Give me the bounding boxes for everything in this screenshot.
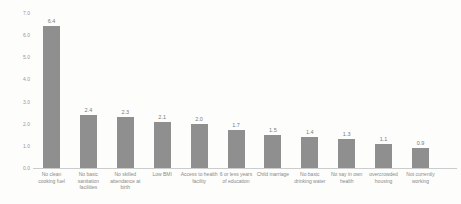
bar-value-label: 2.3: [110, 109, 140, 115]
bar: [375, 144, 392, 168]
category-label: Not currently working: [402, 171, 440, 184]
y-tick-label: 6.0: [12, 32, 30, 38]
category-label: Low BMI: [143, 171, 181, 178]
bar-value-label: 1.4: [295, 129, 325, 135]
category-label: No say in own health: [328, 171, 366, 184]
bar-value-label: 0.9: [406, 140, 436, 146]
category-label: Access to health facility: [180, 171, 218, 184]
bar-value-label: 2.4: [73, 107, 103, 113]
y-tick-label: 7.0: [12, 10, 30, 16]
bar-value-label: 2.1: [147, 114, 177, 120]
bar: [301, 137, 318, 168]
bar-value-label: 1.7: [221, 122, 251, 128]
bar-chart: 0.01.02.03.04.05.06.07.0 6.4No clean coo…: [0, 0, 461, 204]
bar: [80, 115, 97, 168]
x-axis-line: [33, 168, 457, 169]
bar-value-label: 1.5: [258, 127, 288, 133]
category-label: No skilled attendance at birth: [106, 171, 144, 191]
bar: [117, 117, 134, 168]
category-label: No basic drinking water: [291, 171, 329, 184]
category-label: No clean cooking fuel: [33, 171, 71, 184]
bar-value-label: 1.3: [332, 131, 362, 137]
y-tick-label: 2.0: [12, 121, 30, 127]
category-label: Child marriage: [254, 171, 292, 178]
bar: [191, 124, 208, 168]
y-tick-label: 5.0: [12, 54, 30, 60]
category-label: No basic sanitation facilities: [69, 171, 107, 191]
bar: [338, 139, 355, 168]
bar-value-label: 2.0: [184, 116, 214, 122]
bar-value-label: 6.4: [37, 18, 67, 24]
y-tick-label: 4.0: [12, 76, 30, 82]
bar: [412, 148, 429, 168]
bar: [154, 122, 171, 168]
y-tick-label: 0.0: [12, 165, 30, 171]
category-label: 6 or less years of education: [217, 171, 255, 184]
category-label: overcrowded housing: [365, 171, 403, 184]
y-tick-label: 3.0: [12, 99, 30, 105]
bar: [264, 135, 281, 168]
bar: [43, 26, 60, 168]
y-tick-label: 1.0: [12, 143, 30, 149]
bar-value-label: 1.1: [369, 136, 399, 142]
bar: [228, 130, 245, 168]
